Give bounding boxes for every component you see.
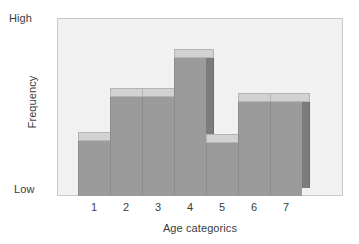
x-tick-label-2: 2 <box>110 201 142 213</box>
bar-front-face <box>238 101 270 196</box>
bar-side-face <box>302 93 310 188</box>
x-axis-tick-labels: 1234567 <box>57 201 343 216</box>
bar-front-face <box>206 142 238 196</box>
bar-top-face <box>174 49 214 58</box>
x-tick-label-7: 7 <box>270 201 302 213</box>
bar-category-7 <box>270 93 302 196</box>
bar-category-5 <box>206 134 238 196</box>
x-axis-title: Age categorics <box>57 222 343 234</box>
x-tick-label-3: 3 <box>142 201 174 213</box>
bar-category-1 <box>78 132 110 196</box>
bar-front-face <box>78 140 110 196</box>
bar-chart: High Low Frequency 1234567 Age categoric… <box>0 0 359 244</box>
bar-front-face <box>142 96 174 196</box>
bar-category-3 <box>142 88 174 196</box>
x-tick-label-5: 5 <box>206 201 238 213</box>
bar-front-face <box>110 96 142 196</box>
x-tick-label-6: 6 <box>238 201 270 213</box>
bar-category-2 <box>110 88 142 196</box>
bar-front-face <box>174 57 206 196</box>
x-tick-label-1: 1 <box>78 201 110 213</box>
x-tick-label-4: 4 <box>174 201 206 213</box>
bar-front-face <box>270 101 302 196</box>
bar-category-6 <box>238 93 270 196</box>
bar-top-face <box>270 93 310 102</box>
bar-category-4 <box>174 49 206 196</box>
